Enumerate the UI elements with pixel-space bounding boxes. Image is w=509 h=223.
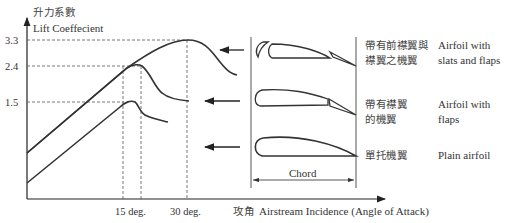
curve-slats-flaps bbox=[27, 40, 237, 153]
x-axis-title-zh: 攻角 bbox=[233, 205, 254, 218]
y-axis-title-en: Lift Coeffecient bbox=[33, 22, 103, 35]
y-tick-1-5: 1.5 bbox=[5, 96, 18, 109]
flaps-label-zh-2: 的機翼 bbox=[365, 113, 397, 126]
y-tick-3-3: 3.3 bbox=[5, 34, 18, 47]
x-axis-title-en: Airstream Incidence (Angle of Attack) bbox=[259, 205, 429, 218]
lift-curves bbox=[27, 40, 237, 183]
y-axis-title-zh: 升力系數 bbox=[33, 6, 75, 19]
flaps-label-en-1: Airfoil with bbox=[438, 98, 490, 111]
plain-label-zh: 單托機翼 bbox=[365, 149, 407, 162]
reference-lines bbox=[27, 40, 188, 199]
flaps-label-zh-1: 帶有襟翼 bbox=[365, 98, 407, 111]
pointer-arrows bbox=[205, 50, 244, 147]
x-tick-15deg: 15 deg. bbox=[115, 205, 146, 218]
airfoil-slats-flaps bbox=[256, 42, 356, 66]
chord-label: Chord bbox=[289, 167, 317, 180]
airfoil-flaps bbox=[255, 90, 356, 115]
y-tick-2-4: 2.4 bbox=[5, 60, 18, 73]
airfoil-shapes bbox=[255, 42, 356, 156]
plain-label-en: Plain airfoil bbox=[438, 149, 490, 162]
curve-flaps bbox=[27, 65, 189, 153]
slats-flaps-label-zh-1: 帶有前襟翼與 bbox=[365, 39, 428, 52]
x-tick-30deg: 30 deg. bbox=[170, 205, 201, 218]
flaps-label-en-2: flaps bbox=[438, 113, 459, 126]
slats-flaps-label-zh-2: 襟翼之機翼 bbox=[365, 54, 418, 67]
curve-plain bbox=[27, 101, 168, 183]
airfoil-plain bbox=[255, 137, 356, 156]
slats-flaps-label-en-2: slats and flaps bbox=[438, 54, 500, 67]
slats-flaps-label-en-1: Airfoil with bbox=[438, 39, 490, 52]
